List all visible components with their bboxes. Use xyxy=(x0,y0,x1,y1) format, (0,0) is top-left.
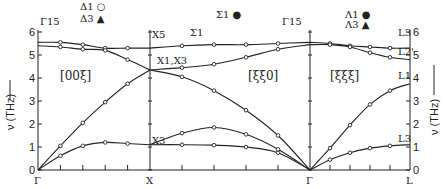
y-tick-label-right: 5 xyxy=(413,49,419,61)
y-tick-label-left: 5 xyxy=(29,49,35,61)
x1x3-label: X1,X3 xyxy=(157,55,187,66)
y-tick-label-left: 4 xyxy=(29,72,35,84)
data-point xyxy=(103,100,107,104)
l3-bottom-label: L3 xyxy=(398,133,411,144)
dispersion-branch xyxy=(38,142,150,170)
data-point xyxy=(212,62,216,66)
data-point xyxy=(388,46,392,50)
data-point xyxy=(368,103,372,107)
y-tick-label-left: 1 xyxy=(29,141,35,153)
data-point xyxy=(244,133,248,137)
x5-label: X5 xyxy=(152,29,165,40)
data-point xyxy=(212,89,216,93)
data-point xyxy=(388,56,392,60)
legend-delta1: Δ1 ○ xyxy=(80,1,106,12)
y-tick-label-right: 6 xyxy=(413,26,419,38)
data-point xyxy=(180,75,184,79)
legend-delta3: Δ3 ▲ xyxy=(80,13,105,24)
data-point xyxy=(276,42,280,46)
dispersion-branch xyxy=(38,70,150,170)
sigma1-curve-label: Σ1 xyxy=(190,27,203,38)
y-tick-label-right: 2 xyxy=(413,118,419,130)
gamma15-label-mid: Γ15 xyxy=(282,16,302,27)
direction-label-xixixi: [ξξξ] xyxy=(330,69,359,83)
y-axis-title-right: ν (THz) xyxy=(428,99,440,135)
data-point xyxy=(328,146,332,150)
data-point xyxy=(180,131,184,135)
data-point xyxy=(59,154,63,158)
dispersion-branch xyxy=(38,46,150,70)
data-point xyxy=(368,51,372,55)
data-point xyxy=(103,49,107,53)
data-point xyxy=(103,141,107,145)
dispersion-branch xyxy=(150,127,310,170)
data-point xyxy=(59,41,63,45)
data-point xyxy=(328,43,332,47)
l1-label: L1 xyxy=(398,70,411,81)
labels: 00112233445566Γ15Γ15X5X1,X3X3Σ1L3L2'L1L3… xyxy=(4,1,440,186)
x-point-l: L xyxy=(406,175,413,186)
phonon-dispersion-chart: 00112233445566Γ15Γ15X5X1,X3X3Σ1L3L2'L1L3… xyxy=(0,0,444,189)
data-point xyxy=(244,145,248,149)
data-point xyxy=(81,144,85,148)
data-point xyxy=(126,142,130,146)
y-axis-title-left: ν (THz) xyxy=(4,94,16,130)
data-point xyxy=(276,134,280,138)
data-point xyxy=(368,45,372,49)
direction-label-00xi: [00ξ] xyxy=(60,69,91,83)
data-point xyxy=(276,47,280,51)
data-point xyxy=(244,43,248,47)
data-point xyxy=(212,126,216,130)
y-tick-label-right: 1 xyxy=(413,141,419,153)
y-tick-label-right: 4 xyxy=(413,72,419,84)
y-tick-label-left: 6 xyxy=(29,26,35,38)
data-point xyxy=(244,56,248,60)
l3-top-label: L3 xyxy=(398,27,411,38)
l2-label: L2' xyxy=(398,46,414,57)
dispersion-branch xyxy=(310,42,410,48)
dispersion-branch xyxy=(310,84,410,170)
data-point xyxy=(212,143,216,147)
y-tick-label-right: 3 xyxy=(413,95,419,107)
data-point xyxy=(126,58,130,62)
x3-label: X3 xyxy=(152,135,165,146)
dispersion-branch xyxy=(150,42,310,48)
data-point xyxy=(348,151,352,155)
dispersion-branch xyxy=(150,70,310,170)
data-markers xyxy=(59,41,392,162)
data-point xyxy=(126,82,130,86)
dispersion-branch xyxy=(150,145,310,170)
dispersion-branch xyxy=(38,42,150,48)
dispersion-curves xyxy=(38,42,410,170)
data-point xyxy=(388,144,392,148)
data-point xyxy=(388,89,392,93)
x-point-gamma-left: Γ xyxy=(34,175,41,186)
data-point xyxy=(212,43,216,47)
data-point xyxy=(59,45,63,49)
direction-label-xixi0: [ξξ0] xyxy=(248,69,278,83)
x-point-x: X xyxy=(146,175,154,186)
legend-sigma1: Σ1 ● xyxy=(216,9,242,20)
y-tick-label-left: 2 xyxy=(29,118,35,130)
data-point xyxy=(368,146,372,150)
gamma15-label-left: Γ15 xyxy=(40,16,60,27)
data-point xyxy=(126,46,130,50)
data-point xyxy=(180,66,184,70)
data-point xyxy=(180,143,184,147)
x-point-gamma-mid: Γ xyxy=(306,175,313,186)
data-point xyxy=(81,43,85,47)
data-point xyxy=(348,123,352,127)
data-point xyxy=(81,121,85,125)
data-point xyxy=(348,45,352,49)
data-point xyxy=(276,148,280,152)
legend-lambda3: Λ3 ▲ xyxy=(344,19,370,30)
data-point xyxy=(244,108,248,112)
data-point xyxy=(59,144,63,148)
data-point xyxy=(180,44,184,48)
data-point xyxy=(328,158,332,162)
y-tick-label-right: 0 xyxy=(413,164,419,176)
dispersion-branch xyxy=(310,145,410,170)
y-tick-label-left: 3 xyxy=(29,95,35,107)
data-point xyxy=(81,47,85,51)
